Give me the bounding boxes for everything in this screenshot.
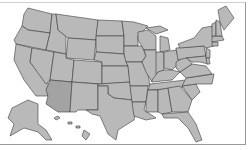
state-florida[interactable] bbox=[162, 112, 202, 142]
state-hawaii[interactable] bbox=[82, 130, 90, 140]
state-north-dakota[interactable] bbox=[96, 20, 124, 36]
state-arizona[interactable] bbox=[46, 80, 72, 112]
state-mississippi[interactable] bbox=[146, 90, 158, 112]
state-colorado[interactable] bbox=[72, 60, 102, 84]
state-connecticut[interactable] bbox=[212, 42, 218, 46]
us-map bbox=[0, 0, 249, 150]
state-arkansas[interactable] bbox=[130, 86, 148, 102]
state-michigan[interactable] bbox=[160, 36, 170, 52]
state-south-dakota[interactable] bbox=[96, 36, 124, 54]
state-hawaii-islands[interactable] bbox=[54, 116, 80, 128]
state-vermont[interactable] bbox=[212, 22, 216, 36]
state-kansas[interactable] bbox=[102, 66, 130, 84]
state-alaska[interactable] bbox=[8, 100, 52, 140]
state-new-jersey[interactable] bbox=[206, 48, 210, 58]
state-new-york[interactable] bbox=[178, 26, 214, 48]
state-new-mexico[interactable] bbox=[70, 82, 98, 112]
state-massachusetts[interactable] bbox=[212, 36, 224, 42]
state-delaware[interactable] bbox=[206, 58, 210, 64]
state-wyoming[interactable] bbox=[66, 38, 96, 60]
